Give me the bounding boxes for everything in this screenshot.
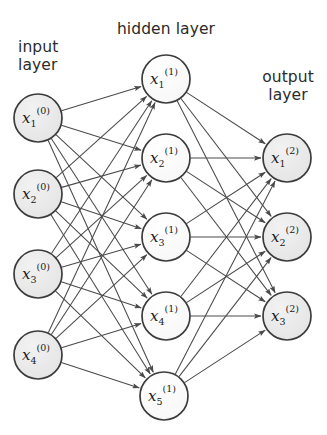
node-x3_1[interactable]: x3(1) xyxy=(142,213,190,261)
edge-x1_1-to-x2_2 xyxy=(181,98,271,216)
neural-network-figure: x1(0)x2(0)x3(0)x4(0)x1(1)x2(1)x3(1)x4(1)… xyxy=(0,0,327,435)
edge-x3_0-to-x1_1 xyxy=(51,101,151,254)
node-x5_1[interactable]: x5(1) xyxy=(140,372,188,420)
node-x1_1[interactable]: x1(1) xyxy=(142,55,190,103)
edges-input-to-hidden xyxy=(48,87,155,388)
nodes-group: x1(0)x2(0)x3(0)x4(0)x1(1)x2(1)x3(1)x4(1)… xyxy=(14,55,311,420)
edge-x3_0-to-x3_1 xyxy=(62,244,141,267)
edge-x2_0-to-x2_1 xyxy=(62,165,141,187)
edge-x5_1-to-x3_2 xyxy=(185,330,266,382)
output-layer-caption: outputlayer xyxy=(248,68,327,104)
hidden-layer-caption: hidden layer xyxy=(110,20,222,38)
node-x3_0[interactable]: x3(0) xyxy=(14,250,62,298)
input-caption-line2: layer xyxy=(18,56,57,74)
node-x4_1[interactable]: x4(1) xyxy=(142,292,190,340)
output-caption-line1: output xyxy=(262,68,314,86)
node-x4_0[interactable]: x4(0) xyxy=(14,331,62,379)
node-x2_2[interactable]: x2(2) xyxy=(263,213,311,261)
output-caption-line2: layer xyxy=(268,86,307,104)
node-x1_0[interactable]: x1(0) xyxy=(14,94,62,142)
edge-x2_1-to-x3_2 xyxy=(181,177,271,295)
input-caption-line1: input xyxy=(18,38,58,56)
node-x2_0[interactable]: x2(0) xyxy=(14,170,62,218)
node-x1_2[interactable]: x1(2) xyxy=(263,134,311,182)
edge-x4_0-to-x4_1 xyxy=(61,324,141,348)
node-x3_2[interactable]: x3(2) xyxy=(263,292,311,340)
edge-x3_1-to-x1_2 xyxy=(187,172,266,223)
edge-x1_0-to-x1_1 xyxy=(61,87,141,111)
edge-x3_0-to-x4_1 xyxy=(61,282,141,308)
edge-x4_0-to-x5_1 xyxy=(61,363,139,388)
node-x2_1[interactable]: x2(1) xyxy=(142,134,190,182)
edge-x5_1-to-x1_2 xyxy=(175,181,275,374)
input-layer-caption: inputlayer xyxy=(18,38,58,74)
edge-x2_0-to-x4_1 xyxy=(56,211,147,298)
edge-x2_1-to-x2_2 xyxy=(187,171,266,222)
